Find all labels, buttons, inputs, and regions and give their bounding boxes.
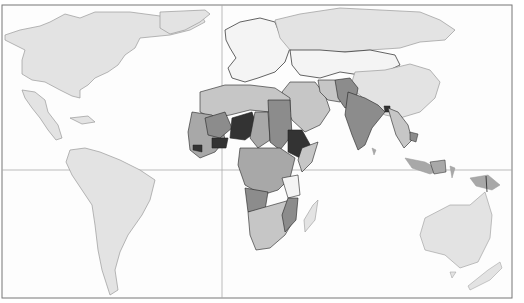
map-canvas <box>0 0 524 303</box>
world-map <box>0 0 524 303</box>
region-burkina-faso <box>212 138 228 148</box>
